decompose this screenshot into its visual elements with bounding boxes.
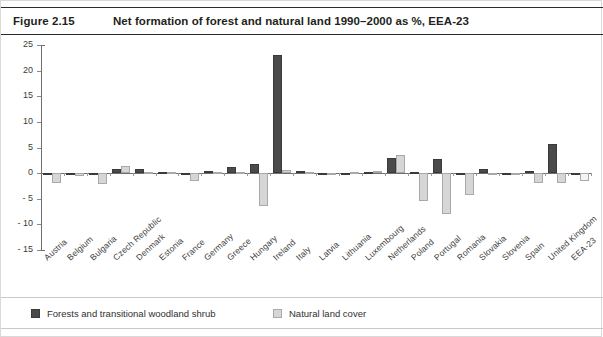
bar-forests <box>112 169 121 173</box>
legend-bottom-rule <box>1 328 603 329</box>
bar-natural-land <box>511 173 520 175</box>
bar-forests <box>43 173 52 175</box>
y-tick-label: 20 <box>7 65 33 75</box>
bar-forests <box>158 172 167 174</box>
bar-group <box>385 45 408 250</box>
bar-natural-land <box>465 173 474 195</box>
figure-header: Figure 2.15 Net formation of forest and … <box>1 7 603 35</box>
bar-forests <box>571 173 580 175</box>
bar-forests <box>341 173 350 175</box>
bar-forests <box>250 164 259 173</box>
y-axis-cap <box>41 250 45 251</box>
bar-group <box>224 45 247 250</box>
legend-swatch-forests-icon <box>31 309 40 318</box>
bar-forests <box>318 173 327 175</box>
bar-forests <box>181 173 190 175</box>
bar-natural-land <box>144 172 153 174</box>
bar-forests <box>410 172 419 174</box>
bar-group <box>454 45 477 250</box>
bar-natural-land <box>121 166 130 173</box>
bar-group <box>247 45 270 250</box>
bar-natural-land <box>396 155 405 173</box>
y-tick-label: 25 <box>7 39 33 49</box>
bar-natural-land <box>327 173 336 175</box>
bar-natural-land <box>167 172 176 174</box>
bar-forests <box>456 173 465 175</box>
bar-group <box>179 45 202 250</box>
bar-forests <box>502 173 511 175</box>
bar-natural-land <box>75 173 84 176</box>
bar-chart-plot: 2520151050- 5- 10- 15 <box>41 45 591 250</box>
bar-natural-land <box>259 173 268 206</box>
y-tick-label: - 5 <box>7 193 33 203</box>
x-tick-mark <box>591 173 592 176</box>
bar-natural-land <box>236 172 245 174</box>
bar-group <box>362 45 385 250</box>
bar-natural-land <box>98 173 107 184</box>
bar-natural-land <box>305 172 314 174</box>
bar-forests <box>89 173 98 175</box>
bar-group <box>408 45 431 250</box>
y-tick-label: - 10 <box>7 218 33 228</box>
y-tick-label: 15 <box>7 90 33 100</box>
bar-group <box>293 45 316 250</box>
figure-title: Net formation of forest and natural land… <box>113 15 469 27</box>
bar-forests <box>364 172 373 174</box>
bar-natural-land <box>282 170 291 173</box>
bar-group-layer <box>41 45 591 250</box>
bar-natural-land <box>488 173 497 175</box>
bar-group <box>522 45 545 250</box>
legend-item-forests: Forests and transitional woodland shrub <box>31 308 215 319</box>
bar-natural-land <box>580 173 589 181</box>
bar-forests <box>387 158 396 173</box>
bar-natural-land <box>534 173 543 183</box>
bar-natural-land <box>419 173 428 201</box>
bar-forests <box>479 169 488 174</box>
bar-forests <box>135 169 144 174</box>
bar-forests <box>525 171 534 174</box>
bar-forests <box>433 159 442 173</box>
bar-group <box>499 45 522 250</box>
bar-group <box>316 45 339 250</box>
bar-natural-land <box>557 173 566 183</box>
bar-forests <box>227 167 236 173</box>
bar-natural-land <box>442 173 451 214</box>
y-tick-label: 0 <box>7 167 33 177</box>
legend-swatch-natural-icon <box>273 309 282 318</box>
bar-forests <box>296 171 305 173</box>
bar-group <box>64 45 87 250</box>
legend-item-natural: Natural land cover <box>273 308 366 319</box>
figure-number: Figure 2.15 <box>13 15 91 27</box>
bar-forests <box>66 173 75 175</box>
bar-group <box>201 45 224 250</box>
bar-natural-land <box>52 173 61 183</box>
bar-forests <box>273 55 282 173</box>
y-tick-label: 5 <box>7 142 33 152</box>
y-tick-label: - 15 <box>7 244 33 254</box>
bar-forests <box>204 171 213 174</box>
bar-group <box>545 45 568 250</box>
bar-natural-land <box>213 172 222 174</box>
bar-natural-land <box>373 171 382 173</box>
bar-group <box>110 45 133 250</box>
bar-group <box>339 45 362 250</box>
legend-label-natural: Natural land cover <box>289 308 366 319</box>
legend-label-forests: Forests and transitional woodland shrub <box>47 308 215 319</box>
bar-group <box>87 45 110 250</box>
bar-natural-land <box>190 173 199 181</box>
bar-natural-land <box>350 172 359 174</box>
bar-group <box>476 45 499 250</box>
chart-legend: Forests and transitional woodland shrub … <box>1 297 603 329</box>
y-tick-label: 10 <box>7 116 33 126</box>
bar-forests <box>548 144 557 173</box>
bar-group <box>270 45 293 250</box>
plot-wrapper: 2520151050- 5- 10- 15 AustriaBelgiumBulg… <box>1 35 603 337</box>
bar-group <box>41 45 64 250</box>
bar-group <box>431 45 454 250</box>
